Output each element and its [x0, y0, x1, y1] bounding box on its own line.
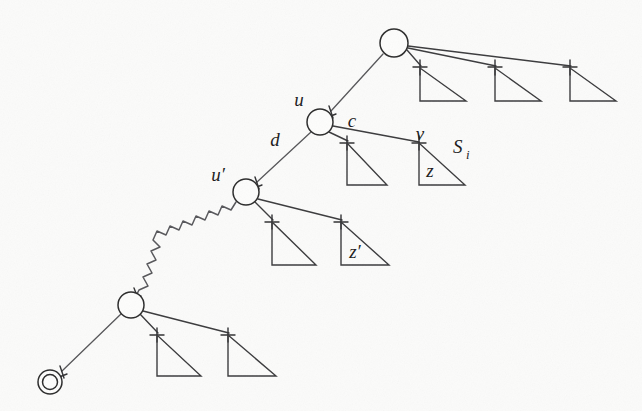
edge-u-to-subtree-1: [329, 132, 348, 141]
subtree-root-3: [570, 68, 616, 101]
edge-lower-to-subtree-1: [140, 314, 158, 333]
node-u[interactable]: [307, 109, 333, 135]
subtree-root-1: [420, 68, 466, 101]
edge-root-to-u: [331, 54, 383, 111]
root-node[interactable]: [380, 29, 408, 57]
subtree-uprime-2: [341, 222, 389, 265]
label-S-i: S: [453, 136, 463, 157]
label-d: d: [270, 129, 280, 150]
node-terminal[interactable]: [38, 370, 62, 394]
edge-root-to-subtree-1: [407, 50, 421, 66]
edge-u-prime-to-lower-squiggly: [136, 202, 236, 296]
node-layer: [38, 29, 408, 394]
edge-root-to-subtree-3: [408, 46, 571, 66]
edge-lower-to-subtree-2: [143, 311, 229, 333]
figure-canvas: u u′ d c v z z′ S i: [0, 0, 642, 411]
subtree-root-2: [495, 68, 541, 101]
subtree-uprime-1: [272, 222, 316, 265]
node-lower[interactable]: [118, 292, 144, 318]
label-u-prime: u′: [211, 164, 226, 185]
edge-u-to-u-prime: [257, 132, 311, 182]
label-u: u: [294, 89, 304, 110]
label-z-prime: z′: [348, 241, 361, 262]
label-c: c: [348, 110, 357, 131]
subtree-lower-2: [228, 335, 276, 376]
tree-diagram-svg: u u′ d c v z z′ S i: [0, 0, 642, 411]
edge-layer: [54, 46, 577, 379]
edge-lower-to-terminal: [62, 314, 121, 371]
subtree-layer: [157, 68, 616, 376]
subtree-lower-1: [157, 335, 201, 376]
label-S-i-subscript: i: [466, 147, 470, 162]
label-v: v: [416, 123, 425, 144]
subtree-u-1: [347, 143, 387, 185]
edge-uprime-to-subtree-1: [255, 202, 273, 220]
label-z: z: [425, 160, 434, 181]
node-u-prime[interactable]: [233, 179, 259, 205]
